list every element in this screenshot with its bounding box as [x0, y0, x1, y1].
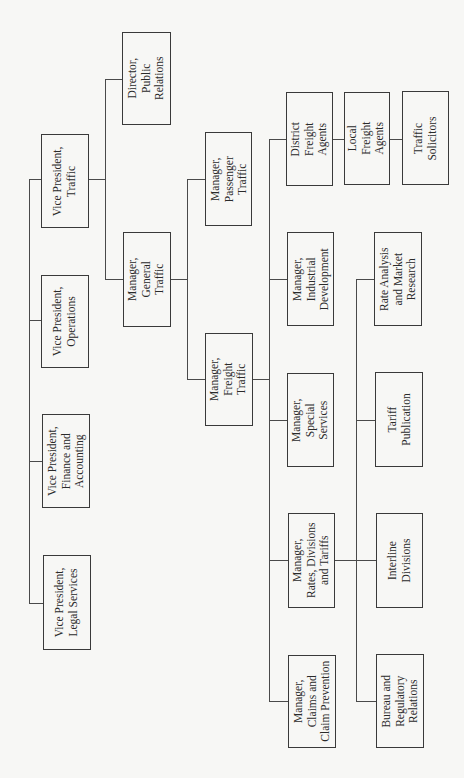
node-label: Bureau and Regulatory Relations: [380, 675, 421, 728]
node-vp-operations: Vice President, Operations: [41, 275, 89, 368]
connector-bureau: [356, 701, 376, 702]
node-manager-industrial-development: Manager, Industrial Development: [287, 232, 334, 326]
connector-freight: [187, 379, 205, 380]
connector-district: [269, 139, 287, 140]
connector-freight-out: [252, 379, 269, 380]
node-label: Manager, Freight Traffic: [209, 358, 250, 401]
node-label: Vice President, Legal Services: [54, 568, 81, 638]
node-label: Rate Analysis and Market Research: [378, 247, 419, 311]
node-label: Local Freight Agents: [347, 122, 388, 155]
connector-local-solicitors: [389, 139, 402, 140]
connector-passenger: [187, 179, 205, 180]
trunk-line: [29, 179, 30, 604]
connector-vp-finance: [29, 461, 43, 462]
node-manager-passenger-traffic: Manager, Passenger Traffic: [205, 132, 252, 226]
node-label: Vice President, Finance and Accounting: [46, 426, 87, 496]
connector-dir-pr: [105, 79, 123, 80]
node-label: Vice President, Traffic: [52, 146, 79, 216]
bus-general-traffic: [187, 179, 188, 380]
bus-vp-traffic: [105, 79, 106, 280]
node-manager-rates-divisions-tariffs: Manager, Rates, Divisions and Tariffs: [288, 513, 335, 608]
connector-vp-legal: [29, 603, 44, 604]
bus-rates: [356, 279, 357, 702]
node-label: Manager, Passenger Traffic: [208, 156, 249, 202]
node-label: Director, Public Relations: [126, 57, 167, 100]
node-rate-analysis: Rate Analysis and Market Research: [374, 232, 422, 326]
node-local-freight-agents: Local Freight Agents: [344, 92, 390, 185]
connector-vp-traffic-out: [88, 179, 105, 180]
node-label: Interline Divisions: [386, 538, 413, 582]
node-director-public-relations: Director, Public Relations: [122, 32, 171, 125]
node-district-freight-agents: District Freight Agents: [286, 92, 333, 186]
node-manager-claims: Manager, Claims and Claim Prevention: [288, 655, 336, 748]
node-label: Tariff Publication: [386, 393, 413, 445]
connector-interline: [356, 560, 376, 561]
connector-industrial: [269, 279, 287, 280]
connector-district-local: [332, 139, 344, 140]
connector-mgr-general: [105, 279, 123, 280]
node-vp-legal: Vice President, Legal Services: [43, 555, 91, 650]
node-vp-traffic: Vice President, Traffic: [41, 134, 89, 228]
node-traffic-solicitors: Traffic Solicitors: [402, 91, 449, 185]
connector-tariff-publication: [356, 420, 375, 421]
connector-rates-out: [335, 560, 356, 561]
node-label: Manager, Industrial Development: [290, 248, 331, 310]
node-label: Manager, Claims and Claim Prevention: [292, 661, 333, 742]
connector-rate-analysis: [356, 279, 374, 280]
node-label: District Freight Agents: [289, 122, 330, 157]
connector-claims: [269, 701, 288, 702]
node-bureau-regulatory: Bureau and Regulatory Relations: [376, 654, 424, 748]
node-label: Manager, Rates, Divisions and Tariffs: [291, 523, 332, 598]
connector-special: [269, 420, 287, 421]
connector-rates: [269, 560, 288, 561]
node-tariff-publication: Tariff Publication: [375, 372, 423, 467]
node-label: Manager, General Traffic: [127, 258, 168, 301]
node-label: Vice President, Operations: [52, 287, 79, 357]
node-manager-general-traffic: Manager, General Traffic: [123, 232, 171, 327]
node-interline-divisions: Interline Divisions: [376, 513, 423, 608]
node-label: Manager, Special Services: [290, 398, 331, 441]
node-manager-special-services: Manager, Special Services: [287, 373, 334, 467]
node-manager-freight-traffic: Manager, Freight Traffic: [205, 333, 253, 426]
connector-general-out: [170, 279, 187, 280]
node-label: Traffic Solicitors: [412, 116, 439, 160]
node-vp-finance: Vice President, Finance and Accounting: [42, 414, 90, 508]
